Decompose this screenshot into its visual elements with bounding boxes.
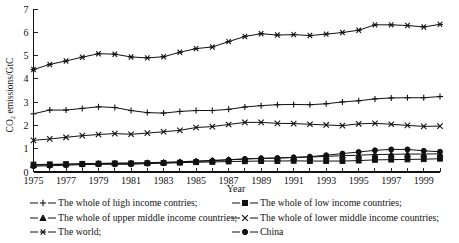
series-1: [31, 94, 444, 117]
series-marker-cross: [242, 215, 248, 221]
x-tick-label: 1975: [24, 175, 44, 186]
series-2: [31, 120, 443, 143]
series-marker-plus: [79, 105, 85, 111]
series-marker-plus: [128, 108, 134, 114]
series-marker-asterisk: [258, 31, 264, 36]
legend-marker-cross-icon: [232, 212, 258, 224]
x-tick-label: 1999: [414, 175, 434, 186]
series-marker-plus: [274, 102, 280, 108]
legend-key-square-icon: [232, 197, 258, 209]
series-marker-asterisk: [144, 55, 150, 60]
y-tick-label: 6: [24, 27, 29, 38]
series-marker-plus: [307, 102, 313, 108]
series-marker-asterisk: [307, 33, 313, 38]
x-tick-label: 1993: [316, 175, 336, 186]
legend-item-triangle[interactable]: The whole of upper middle income countri…: [30, 211, 237, 225]
series-marker-plus: [323, 101, 329, 107]
series-marker-plus: [258, 103, 264, 109]
y-tick-label: 3: [24, 97, 29, 108]
series-marker-plus: [339, 99, 345, 105]
series-marker-asterisk: [128, 54, 134, 59]
series-marker-square: [438, 156, 443, 161]
series-marker-asterisk: [242, 34, 248, 39]
chart-figure: 01234567 1975197719791981198319851987198…: [0, 0, 459, 243]
series-3: [31, 147, 443, 169]
y-axis-title-text: CO₂ emissions/GtC: [5, 58, 15, 133]
series-marker-plus: [161, 110, 167, 116]
x-tick-label: 1997: [381, 175, 401, 186]
y-tick-label: 7: [24, 4, 29, 15]
series-0: [31, 22, 444, 72]
series-marker-plus: [291, 101, 297, 107]
series-marker-asterisk: [274, 32, 280, 37]
series-marker-plus: [388, 95, 394, 101]
legend-item-square[interactable]: The whole of low income countries;: [232, 196, 402, 210]
x-tick-label: 1977: [56, 175, 76, 186]
series-marker-square: [356, 158, 361, 163]
series-marker-plus: [47, 107, 53, 113]
series-5: [31, 151, 443, 168]
legend-item-label: The whole of low income countries;: [260, 196, 402, 210]
y-tick-label: 5: [24, 50, 29, 61]
series-marker-asterisk: [226, 39, 232, 44]
series-marker-asterisk: [63, 58, 69, 63]
series-marker-asterisk: [372, 22, 378, 27]
series-marker-square: [340, 159, 345, 164]
series-marker-asterisk: [339, 30, 345, 35]
x-tick-label: 1991: [284, 175, 304, 186]
x-tick-label: 1985: [186, 175, 206, 186]
series-line: [34, 122, 441, 140]
x-tick-label: 1981: [121, 175, 141, 186]
legend-item-circle[interactable]: China: [232, 225, 283, 239]
series-marker-plus: [242, 104, 248, 110]
x-tick-label: 1979: [89, 175, 109, 186]
legend-row: The whole of high income contries;The wh…: [0, 196, 459, 210]
series-marker-square: [373, 157, 378, 162]
legend-item-plus[interactable]: The whole of high income contries;: [30, 196, 198, 210]
series-marker-plus: [356, 98, 362, 104]
legend-item-asterisk[interactable]: The world;: [30, 225, 101, 239]
series-marker-plus: [404, 95, 410, 101]
legend-marker-plus-icon: [30, 197, 56, 209]
series-marker-asterisk: [177, 50, 183, 55]
series-marker-plus: [63, 107, 69, 113]
chart-plot-area: 01234567 1975197719791981198319851987198…: [0, 0, 459, 195]
legend-marker-square-icon: [232, 197, 258, 209]
legend-row: The world;China: [0, 225, 459, 239]
series-marker-plus: [40, 200, 46, 206]
y-axis-title: CO₂ emissions/GtC: [5, 58, 15, 133]
series-marker-plus: [209, 108, 215, 114]
series-marker-asterisk: [161, 54, 167, 59]
legend-item-label: The whole of high income contries;: [58, 196, 198, 210]
series-marker-asterisk: [388, 22, 394, 27]
series-marker-plus: [193, 108, 199, 114]
series-marker-plus: [226, 106, 232, 112]
legend-marker-circle-icon: [232, 226, 258, 238]
series-marker-square: [421, 157, 426, 162]
series-marker-plus: [144, 110, 150, 116]
series-marker-asterisk: [47, 62, 53, 67]
series-marker-asterisk: [79, 55, 85, 60]
x-axis-title-text: Year: [227, 183, 246, 194]
series-marker-plus: [96, 104, 102, 110]
legend-key-plus-icon: [30, 197, 56, 209]
series-marker-square: [242, 200, 247, 205]
legend-item-label: The whole of lower middle income countri…: [260, 211, 439, 225]
series-4: [31, 156, 442, 167]
x-tick-label: 1983: [154, 175, 174, 186]
legend-key-circle-icon: [232, 226, 258, 238]
series-marker-square: [389, 157, 394, 162]
series-marker-asterisk: [291, 32, 297, 37]
series-marker-circle: [242, 229, 247, 234]
series-marker-square: [324, 159, 329, 164]
series-marker-asterisk: [323, 32, 329, 37]
series-marker-square: [405, 157, 410, 162]
series-marker-plus: [112, 104, 118, 110]
series-marker-asterisk: [40, 229, 46, 234]
legend-item-cross[interactable]: The whole of lower middle income countri…: [232, 211, 439, 225]
legend-key-asterisk-icon: [30, 226, 56, 238]
series-marker-triangle: [40, 214, 46, 220]
legend-key-triangle-icon: [30, 212, 56, 224]
x-tick-label: 1989: [251, 175, 271, 186]
series-marker-asterisk: [96, 51, 102, 56]
